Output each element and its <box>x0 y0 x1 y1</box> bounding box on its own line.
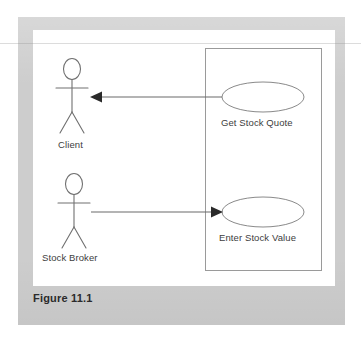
scanned-figure-page: Client Stock Broker Get Stock Quote Ente… <box>0 0 361 343</box>
use-case-enter-stock-value-label: Enter Stock Value <box>219 232 296 243</box>
figure-caption: Figure 11.1 <box>33 292 93 304</box>
diagram-white-panel <box>33 30 335 286</box>
actor-client-label: Client <box>58 139 83 150</box>
actor-stock-broker-label: Stock Broker <box>42 252 98 263</box>
use-case-get-stock-quote-label: Get Stock Quote <box>221 117 293 128</box>
